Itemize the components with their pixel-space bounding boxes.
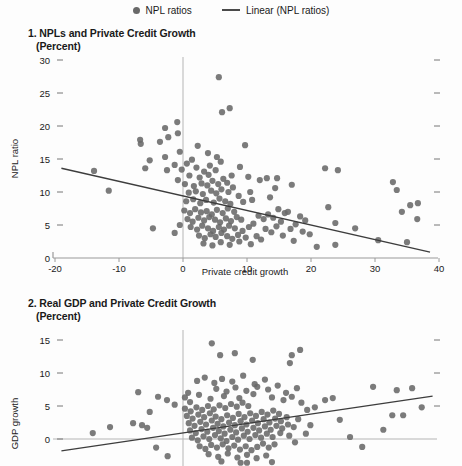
data-point [289,182,295,188]
data-point [289,394,295,400]
data-point [275,382,281,388]
data-point [197,174,203,180]
data-point [307,231,313,237]
data-point [182,181,188,187]
y-tick-label: 30 [39,55,50,66]
data-point [287,226,293,232]
data-point [237,446,243,452]
data-point [162,125,168,131]
data-point [219,109,225,115]
data-point [243,388,249,394]
y-tick-label: 20 [39,121,50,132]
data-point [257,177,263,183]
data-point [226,419,232,425]
data-point [192,206,198,212]
data-point [144,425,150,431]
data-point [304,407,310,413]
x-tick-label: -10 [112,263,126,274]
data-point [239,425,245,431]
data-point [221,393,227,399]
data-point [165,453,171,459]
data-point [91,168,97,174]
data-point [177,149,183,155]
data-point [263,452,269,458]
data-point [239,400,245,406]
data-point [289,352,295,358]
data-point [214,444,220,450]
data-point [213,234,219,240]
data-point [229,434,235,440]
y-tick-label: 5 [45,220,50,231]
data-point [232,384,238,390]
data-point [232,225,238,231]
data-point [325,204,331,210]
data-point [150,225,156,231]
data-point [265,386,271,392]
data-point [292,439,298,445]
data-point [260,441,266,447]
data-point [172,162,178,168]
data-point [225,450,231,456]
data-point [200,433,206,439]
data-point [184,161,190,167]
data-point [268,229,274,235]
data-point [352,225,358,231]
trend-line-icon [222,9,240,11]
chart-2-plot: 051015 [39,330,440,466]
data-point [240,199,246,205]
data-point [222,405,228,411]
data-point [194,378,200,384]
data-point [295,416,301,422]
chart1-y-axis-label: NPL ratio [9,124,20,194]
data-point [194,227,200,233]
data-point [209,178,215,184]
data-point [250,391,256,397]
data-point [240,373,246,379]
data-point [241,433,247,439]
data-point [389,412,395,418]
data-point [332,220,338,226]
data-point [259,409,265,415]
legend-item-linear: Linear (NPL ratios) [222,5,330,16]
data-point [195,215,201,221]
data-point [322,397,328,403]
y-tick-label: 10 [39,368,50,379]
data-point [264,431,270,437]
data-point [211,380,217,386]
data-point [203,421,209,427]
data-point [212,432,218,438]
data-point [274,175,280,181]
data-point [399,209,405,215]
data-point [270,408,276,414]
data-point [202,446,208,452]
data-point [322,165,328,171]
y-tick-label: 15 [39,335,50,346]
data-point [252,432,258,438]
legend-label-linear: Linear (NPL ratios) [246,5,330,16]
data-point [245,174,251,180]
scatter-dot-icon [133,7,140,14]
scatter-points [91,74,421,250]
y-tick-label: 0 [45,253,50,264]
data-point [287,360,293,366]
data-point [153,444,159,450]
data-point [209,242,215,248]
data-point [227,427,233,433]
data-point [335,167,341,173]
data-point [238,460,244,466]
data-point [214,207,220,213]
data-point [244,452,250,458]
legend-item-npl-ratios: NPL ratios [133,5,192,16]
data-point [261,216,267,222]
data-point [177,222,183,228]
data-point [195,437,201,443]
data-point [198,209,204,215]
data-point [224,180,230,186]
data-point [380,427,386,433]
data-point [165,134,171,140]
data-point [90,430,96,436]
data-point [216,196,222,202]
data-point [175,177,181,183]
x-tick-label: -20 [48,263,62,274]
data-point [209,340,215,346]
